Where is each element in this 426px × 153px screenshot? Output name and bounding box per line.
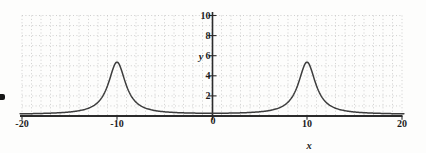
figure-plot: 246810-20-1001020 y x: [0, 0, 426, 153]
y-tick-label: 8: [206, 30, 211, 41]
y-tick-label: 4: [206, 70, 211, 81]
plot-canvas: 246810-20-1001020: [0, 0, 426, 153]
x-tick-label: 20: [397, 118, 407, 129]
y-tick-label: 2: [206, 90, 211, 101]
y-tick-label: 6: [206, 50, 211, 61]
y-tick-label: 10: [201, 10, 211, 21]
scan-artifact-mark: [0, 94, 5, 100]
x-tick-label: 10: [302, 118, 312, 129]
x-tick-label: 0: [211, 115, 216, 126]
x-tick-label: -20: [15, 118, 28, 129]
x-tick-label: -10: [110, 118, 123, 129]
